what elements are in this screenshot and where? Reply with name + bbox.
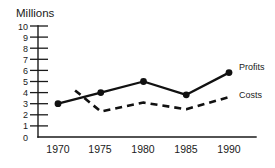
y-tick-label: 6	[23, 66, 28, 76]
data-point-profits	[55, 100, 62, 107]
y-axis-tick-labels: 10 9 8 7 6 5 4 3 2 1 0	[18, 22, 28, 143]
data-point-profits	[226, 69, 233, 76]
series-label-profits: Profits	[239, 62, 265, 72]
y-axis-title: Millions	[16, 7, 55, 19]
data-point-profits	[140, 78, 147, 85]
x-tick-label: 1990	[217, 143, 241, 155]
y-tick-label: 1	[23, 121, 28, 131]
data-point-profits	[183, 91, 190, 98]
y-tick-label: 2	[23, 110, 28, 120]
y-tick-label: 4	[23, 88, 28, 98]
series-label-costs: Costs	[239, 90, 263, 100]
chart-canvas: Millions 10 9 8 7 6 5 4 3 2	[0, 0, 275, 168]
y-tick-label: 8	[23, 44, 28, 54]
y-tick-label: 7	[23, 55, 28, 65]
y-tick-label: 3	[23, 99, 28, 109]
y-axis-ticks	[30, 26, 48, 126]
x-tick-label: 1985	[174, 143, 198, 155]
line-chart: Millions 10 9 8 7 6 5 4 3 2	[0, 0, 275, 168]
x-tick-label: 1975	[88, 143, 112, 155]
y-tick-label: 5	[23, 77, 28, 87]
y-tick-label: 10	[18, 22, 28, 32]
x-axis-tick-labels: 1970 1975 1980 1985 1990	[46, 143, 241, 155]
x-tick-label: 1980	[131, 143, 155, 155]
x-tick-label: 1970	[46, 143, 70, 155]
data-point-profits	[97, 89, 104, 96]
y-tick-label: 9	[23, 33, 28, 43]
y-tick-label: 0	[23, 133, 28, 143]
